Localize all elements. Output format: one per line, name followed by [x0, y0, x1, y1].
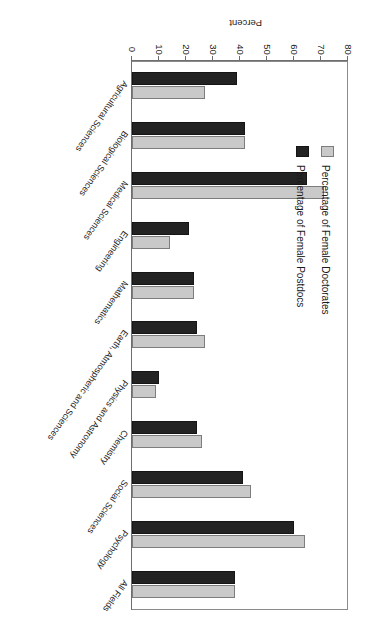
bar-postdocs: [132, 571, 235, 584]
axis-tick-label: 10: [154, 35, 165, 65]
axis-tick-label: 30: [208, 35, 219, 65]
bar-postdocs: [132, 521, 294, 534]
bar-postdocs: [132, 421, 197, 434]
legend-label-postdocs: Percentage of Female Postdocs: [295, 165, 306, 307]
bar-doctorates: [132, 335, 205, 348]
category-label: Psychology: [96, 528, 131, 571]
category-label: Chemistry: [99, 428, 130, 467]
bar-doctorates: [132, 435, 202, 448]
bar-postdocs: [132, 272, 194, 285]
category-label: Engineering: [94, 229, 130, 274]
bar-postdocs: [132, 222, 189, 235]
bar-postdocs: [132, 471, 243, 484]
category-label: Mathematics: [93, 279, 130, 327]
bar-doctorates: [132, 585, 235, 598]
bar-postdocs: [132, 371, 159, 384]
axis-tick-label: 20: [181, 35, 192, 65]
rotated-figure-wrapper: Agricultural SciencesBiological Sciences…: [0, 0, 374, 641]
percent-axis-title: Percent: [229, 18, 262, 29]
bar-doctorates: [132, 385, 156, 398]
axis-tick-label: 80: [343, 35, 354, 65]
bar-postdocs: [132, 122, 245, 135]
axis-tick-label: 40: [235, 35, 246, 65]
bar-chart-figure: Agricultural SciencesBiological Sciences…: [0, 0, 374, 641]
category-label: Social Sciences: [85, 478, 130, 536]
bar-doctorates: [132, 535, 305, 548]
axis-tick-label: 0: [127, 35, 138, 65]
category-label: All Fields: [101, 578, 130, 614]
axis-tick-label: 60: [289, 35, 300, 65]
legend-label-doctorates: Percentage of Female Doctorates: [320, 165, 331, 315]
bar-postdocs: [132, 321, 197, 334]
bar-postdocs: [132, 172, 308, 185]
bar-doctorates: [132, 485, 251, 498]
legend-swatch-doctorates: [321, 146, 334, 157]
axis-tick-label: 50: [262, 35, 273, 65]
axis-tick-label: 70: [316, 35, 327, 65]
bar-doctorates: [132, 86, 205, 99]
bar-doctorates: [132, 286, 194, 299]
bar-doctorates: [132, 136, 245, 149]
legend-swatch-postdocs: [296, 146, 309, 157]
bar-postdocs: [132, 72, 237, 85]
bar-doctorates: [132, 236, 170, 249]
